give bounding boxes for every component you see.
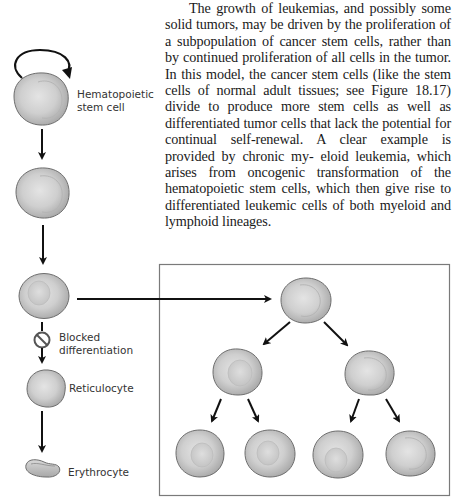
down-right-arrow xyxy=(248,399,258,421)
differentiated-tumor-cell xyxy=(313,431,363,478)
stem-cell-figure xyxy=(0,0,469,502)
differentiated-tumor-cell xyxy=(245,430,295,477)
progenitor-cell xyxy=(19,274,69,319)
differentiated-tumor-cell xyxy=(386,431,435,476)
cancer-stem-cell xyxy=(281,278,331,323)
label-line: stem cell xyxy=(77,101,154,114)
cancer-stem-cell xyxy=(345,351,394,395)
progenitor-cell xyxy=(16,168,69,218)
erythrocyte xyxy=(26,460,60,477)
reticulocyte xyxy=(27,370,65,407)
label-line: Blocked xyxy=(59,331,133,344)
erythrocyte-label: Erythrocyte xyxy=(68,466,129,479)
cancer-stem-cell xyxy=(213,349,262,395)
down-right-arrow xyxy=(324,322,347,345)
textbook-page: The growth of leukemias, and possibly so… xyxy=(0,0,469,502)
reticulocyte-label: Reticulocyte xyxy=(69,382,134,395)
down-right-arrow xyxy=(386,399,399,421)
hematopoietic-stem-cell-label: Hematopoietic stem cell xyxy=(77,88,154,114)
label-line: differentiation xyxy=(59,344,133,357)
hematopoietic-stem-cell xyxy=(14,73,68,125)
differentiated-tumor-cell xyxy=(176,430,224,477)
down-left-arrow xyxy=(351,399,359,421)
prohibition-icon xyxy=(35,333,50,348)
label-line: Hematopoietic xyxy=(77,88,154,101)
down-left-arrow xyxy=(264,322,290,344)
blocked-differentiation-label: Blocked differentiation xyxy=(59,331,133,357)
down-left-arrow xyxy=(212,399,221,421)
